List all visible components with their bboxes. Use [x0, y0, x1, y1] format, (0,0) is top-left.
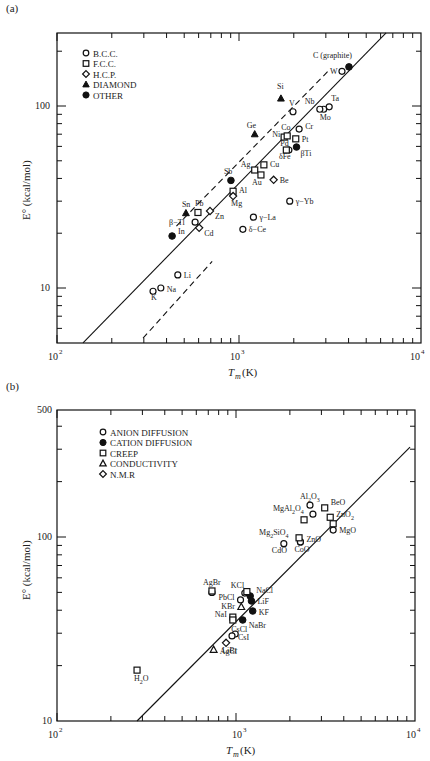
svg-text:10: 10 — [48, 351, 58, 362]
svg-text:Sb: Sb — [224, 167, 232, 176]
svg-text:CsI: CsI — [238, 633, 249, 642]
svg-text:DIAMOND: DIAMOND — [93, 80, 137, 90]
svg-text:Ge: Ge — [247, 121, 257, 130]
svg-text:Mg: Mg — [231, 199, 242, 208]
svg-text:Ag: Ag — [241, 160, 251, 169]
svg-text:B.C.C.: B.C.C. — [93, 49, 118, 59]
svg-text:V: V — [289, 99, 295, 108]
panel-a-label: (a) — [6, 2, 19, 15]
svg-text:T: T — [226, 744, 233, 756]
svg-text:Be: Be — [280, 176, 289, 185]
svg-text:4: 4 — [417, 726, 421, 734]
svg-text:3: 3 — [241, 348, 245, 356]
svg-text:H2O: H2O — [134, 674, 149, 685]
plot-b-ytick-500: 500 — [37, 404, 52, 415]
plot-a-legend: B.C.C.F.C.C.H.C.P.DIAMONDOTHER — [83, 49, 137, 101]
svg-text:3: 3 — [243, 726, 247, 734]
svg-text:10: 10 — [230, 351, 240, 362]
plot-b-xtick-1e2: 102 — [48, 726, 63, 740]
svg-text:NaI: NaI — [215, 610, 227, 619]
svg-text:Pd: Pd — [280, 139, 288, 148]
plot-a-xtick-1e4: 104 — [410, 348, 425, 362]
svg-text:T: T — [228, 366, 235, 378]
svg-text:OTHER: OTHER — [93, 91, 123, 101]
svg-text:W: W — [330, 67, 338, 76]
svg-text:Li: Li — [184, 271, 192, 280]
plot-a-ytick-10: 10 — [40, 282, 50, 293]
svg-text:KBr: KBr — [221, 602, 235, 611]
svg-text:AgBr: AgBr — [203, 578, 221, 587]
svg-text:Al2O3: Al2O3 — [300, 492, 320, 503]
svg-text:H.C.P.: H.C.P. — [93, 70, 116, 80]
svg-text:Mo: Mo — [320, 113, 331, 122]
svg-text:ANION DIFFUSION: ANION DIFFUSION — [110, 428, 189, 438]
plot-b-ytick-100: 100 — [37, 531, 52, 542]
plot-a-ylabel: E° (kcal/mol) — [20, 160, 33, 220]
svg-text:(K): (K) — [242, 366, 258, 379]
svg-text:KCl: KCl — [231, 581, 245, 590]
svg-text:γ−Yb: γ−Yb — [295, 197, 314, 206]
svg-text:m: m — [233, 750, 239, 759]
svg-text:BeO: BeO — [331, 498, 346, 507]
plot-b-xtick-1e3: 103 — [232, 726, 247, 740]
svg-text:LiBr: LiBr — [222, 646, 237, 655]
svg-text:Cd: Cd — [204, 229, 213, 238]
svg-text:N.M.R: N.M.R — [110, 470, 135, 480]
svg-text:KF: KF — [259, 608, 270, 617]
svg-text:Pb: Pb — [195, 199, 203, 208]
plot-a-xtick-1e3: 103 — [230, 348, 245, 362]
svg-text:CREEP: CREEP — [110, 449, 138, 459]
svg-text:C (graphite): C (graphite) — [313, 51, 352, 60]
svg-text:CATION DIFFUSION: CATION DIFFUSION — [110, 438, 193, 448]
svg-text:10: 10 — [48, 729, 58, 740]
svg-text:In: In — [178, 227, 185, 236]
svg-text:NaCl: NaCl — [256, 586, 274, 595]
svg-text:Co: Co — [281, 123, 290, 132]
svg-text:Nb: Nb — [305, 97, 315, 106]
svg-text:Si: Si — [277, 82, 284, 91]
svg-text:NaBr: NaBr — [249, 621, 267, 630]
svg-text:MgO: MgO — [339, 526, 356, 535]
plot-a-ytick-100: 100 — [35, 100, 50, 111]
plot-b-ytick-10: 10 — [42, 715, 52, 726]
svg-text:2: 2 — [59, 348, 63, 356]
svg-text:F.C.C.: F.C.C. — [93, 59, 116, 69]
svg-text:4: 4 — [421, 348, 425, 356]
svg-text:CoO: CoO — [294, 545, 309, 554]
svg-text:PbCl: PbCl — [219, 593, 236, 602]
plot-b-ylabel: E° (kcal/mol) — [20, 540, 33, 600]
plot-b-xtick-1e4: 104 — [406, 726, 421, 740]
figure: (a) 100 10 102 103 104 T m (K) E° (kcal/… — [0, 0, 430, 761]
svg-text:γ−La: γ−La — [258, 213, 276, 222]
svg-text:LiF: LiF — [257, 597, 269, 606]
svg-text:MgAl2O4: MgAl2O4 — [273, 504, 304, 515]
svg-text:Al: Al — [239, 186, 248, 195]
plot-b-legend: ANION DIFFUSIONCATION DIFFUSIONCREEPCOND… — [100, 428, 193, 480]
svg-text:Ta: Ta — [331, 94, 339, 103]
svg-text:Au: Au — [252, 178, 262, 187]
svg-text:m: m — [235, 372, 241, 381]
plot-a-xtick-1e2: 102 — [48, 348, 63, 362]
plot-a-xlabel: T m (K) — [228, 366, 258, 381]
svg-text:Mg2SiO4: Mg2SiO4 — [259, 528, 289, 539]
svg-text:Sn: Sn — [182, 200, 190, 209]
svg-text:δ−Ce: δ−Ce — [249, 225, 267, 234]
plot-b-data: Al2O3MgAl2O4MgOZnOCoOCdOKClPbClCsClCsIAg… — [134, 447, 410, 721]
svg-text:10: 10 — [406, 729, 416, 740]
svg-text:Na: Na — [167, 285, 177, 294]
svg-text:10: 10 — [232, 729, 242, 740]
svg-text:(K): (K) — [240, 744, 256, 757]
svg-text:Cu: Cu — [270, 160, 279, 169]
svg-text:Cr: Cr — [305, 122, 313, 131]
svg-text:CONDUCTIVITY: CONDUCTIVITY — [110, 459, 178, 469]
svg-text:ZnO: ZnO — [306, 535, 321, 544]
svg-text:Pt: Pt — [302, 135, 309, 144]
svg-text:Zn: Zn — [215, 212, 224, 221]
panel-b-label: (b) — [6, 380, 19, 393]
svg-text:K: K — [151, 293, 157, 302]
svg-text:2: 2 — [59, 726, 63, 734]
svg-text:β−Tl: β−Tl — [169, 218, 185, 227]
plot-b-xlabel: T m (K) — [226, 744, 256, 759]
svg-text:ZnO2: ZnO2 — [336, 510, 354, 521]
svg-text:βTi: βTi — [301, 149, 313, 158]
